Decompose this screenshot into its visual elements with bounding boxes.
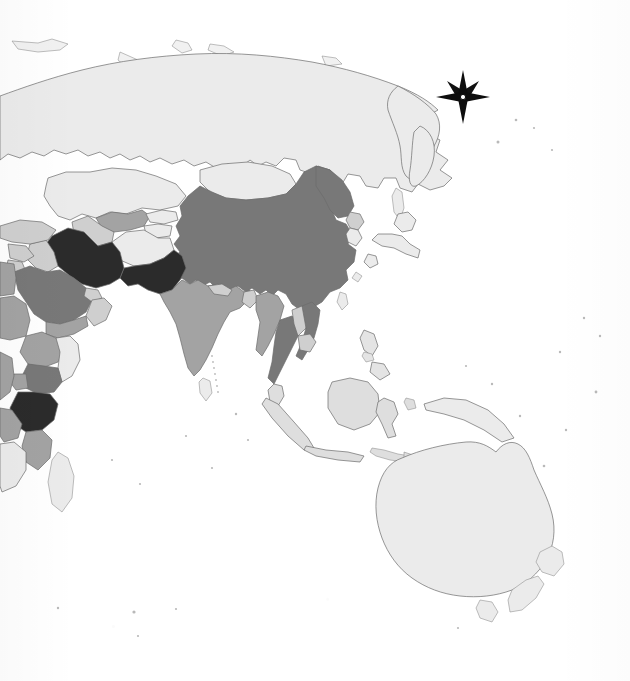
speck [551, 149, 553, 151]
speck [583, 317, 585, 319]
choropleth-map-canvas[interactable] [0, 0, 630, 681]
speck [185, 435, 187, 437]
speck [559, 351, 561, 353]
speck [235, 413, 237, 415]
speck [519, 415, 521, 417]
speck [139, 483, 141, 485]
speck [211, 467, 213, 469]
speck [595, 391, 598, 394]
speck [491, 383, 493, 385]
region-egypt[interactable] [0, 262, 16, 296]
world-map-figure [0, 0, 630, 681]
speck [565, 429, 567, 431]
speck [175, 608, 177, 610]
speck [137, 635, 139, 637]
speck [533, 127, 535, 129]
speck [465, 365, 467, 367]
speck [132, 610, 135, 613]
speck [57, 607, 59, 609]
speck [543, 465, 546, 468]
speck [247, 439, 249, 441]
speck [515, 119, 518, 122]
speck [111, 459, 113, 461]
speck [457, 627, 459, 629]
speck [497, 141, 500, 144]
speck [599, 335, 601, 337]
